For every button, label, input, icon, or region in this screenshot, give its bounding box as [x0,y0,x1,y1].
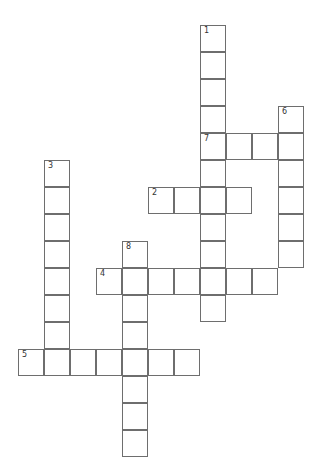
crossword-cell[interactable] [96,349,122,376]
crossword-cell[interactable] [122,430,148,457]
clue-number: 8 [126,243,131,251]
crossword-cell[interactable] [278,214,304,241]
clue-number: 5 [22,351,27,359]
crossword-cell[interactable] [44,241,70,268]
crossword-cell[interactable] [44,295,70,322]
crossword-cell[interactable] [44,322,70,349]
crossword-cell[interactable]: 8 [122,241,148,268]
clue-number: 4 [100,270,105,278]
crossword-cell[interactable] [278,187,304,214]
crossword-cell[interactable] [278,160,304,187]
crossword-cell[interactable] [174,187,200,214]
crossword-cell[interactable] [200,52,226,79]
crossword-cell[interactable]: 5 [18,349,44,376]
clue-number: 2 [152,189,157,197]
crossword-cell[interactable]: 4 [96,268,122,295]
crossword-cell[interactable] [122,268,148,295]
crossword-cell[interactable] [44,268,70,295]
crossword-cell[interactable] [122,376,148,403]
crossword-cell[interactable] [252,268,278,295]
clue-number: 6 [282,108,287,116]
crossword-cell[interactable] [122,349,148,376]
crossword-cell[interactable] [252,133,278,160]
crossword-cell[interactable] [226,133,252,160]
crossword-cell[interactable] [70,349,96,376]
crossword-cell[interactable] [174,349,200,376]
crossword-cell[interactable] [200,160,226,187]
clue-number: 3 [48,162,53,170]
crossword-cell[interactable] [200,295,226,322]
clue-number: 7 [204,135,209,143]
crossword-cell[interactable]: 6 [278,106,304,133]
crossword-cell[interactable] [148,349,174,376]
crossword-cell[interactable] [122,322,148,349]
crossword-cell[interactable] [226,268,252,295]
crossword-cell[interactable] [200,187,226,214]
crossword-cell[interactable] [174,268,200,295]
crossword-cell[interactable] [44,349,70,376]
crossword-cell[interactable] [200,268,226,295]
crossword-cell[interactable] [278,133,304,160]
crossword-cell[interactable] [44,214,70,241]
crossword-cell[interactable] [122,295,148,322]
crossword-cell[interactable] [44,187,70,214]
crossword-cell[interactable]: 7 [200,133,226,160]
crossword-cell[interactable] [200,214,226,241]
crossword-cell[interactable] [278,241,304,268]
crossword-cell[interactable] [148,268,174,295]
crossword-cell[interactable] [226,187,252,214]
crossword-cell[interactable] [122,403,148,430]
crossword-cell[interactable] [200,106,226,133]
clue-number: 1 [204,27,209,35]
crossword-cell[interactable]: 2 [148,187,174,214]
crossword-cell[interactable]: 1 [200,25,226,52]
crossword-cell[interactable]: 3 [44,160,70,187]
crossword-cell[interactable] [200,241,226,268]
crossword-cell[interactable] [200,79,226,106]
